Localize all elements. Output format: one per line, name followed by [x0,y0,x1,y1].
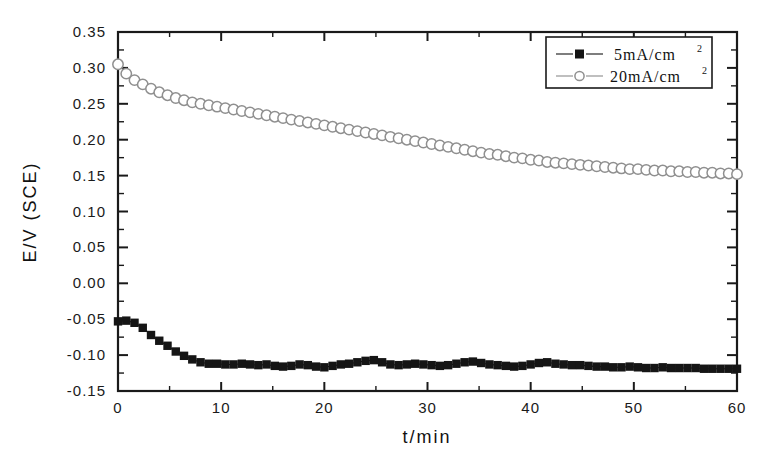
x-tick-label: 30 [418,399,437,416]
data-point-square [568,361,576,369]
y-tick-label: -0.10 [67,346,106,363]
data-point-square [139,324,147,332]
y-tick-label: 0.00 [73,274,106,291]
data-point-square [576,361,584,369]
data-point-square [708,365,716,373]
data-point-square [526,360,534,368]
data-point-square [617,363,625,371]
data-point-square [287,362,295,370]
chart-legend: 5mA/cm 2 20mA/cm 2 [546,37,712,88]
data-point-square [205,360,213,368]
data-point-square [535,359,543,367]
x-tick-label: 0 [113,399,122,416]
legend-label-20ma-superscript: 2 [702,65,707,76]
data-point-square [452,360,460,368]
data-point-square [229,360,237,368]
data-point-square [114,317,122,325]
x-axis-title: t/min [402,427,451,447]
y-tick-label: -0.05 [67,310,106,327]
data-point-square [320,363,328,371]
data-point-square [427,361,435,369]
y-axis-title: E/V (SCE) [20,161,40,262]
data-point-square [147,331,155,339]
data-point-square [716,365,724,373]
y-tick-label: -0.15 [67,382,106,399]
data-point-circle [113,59,123,69]
legend-marker-filled-square [575,50,584,59]
data-point-square [460,358,468,366]
data-point-square [493,361,501,369]
data-point-square [155,337,163,345]
data-point-square [312,362,320,370]
x-tick-label: 40 [521,399,540,416]
y-tick-label: 0.35 [73,23,106,40]
data-point-square [361,357,369,365]
data-point-square [733,365,741,373]
data-point-square [172,347,180,355]
data-point-square [667,364,675,372]
x-tick-label: 20 [315,399,334,416]
data-point-circle [732,169,742,179]
data-point-square [518,362,526,370]
legend-label-5ma-superscript: 2 [697,43,702,54]
data-point-square [559,360,567,368]
data-point-square [485,360,493,368]
data-point-square [725,365,733,373]
data-point-square [271,362,279,370]
data-point-square [683,364,691,372]
data-point-square [213,360,221,368]
data-point-square [609,363,617,371]
data-point-square [634,363,642,371]
data-point-square [419,360,427,368]
data-point-square [353,358,361,366]
data-point-square [650,364,658,372]
data-point-square [477,359,485,367]
data-point-square [279,362,287,370]
legend-label-5ma: 5mA/cm [614,46,676,63]
data-point-square [254,361,262,369]
data-point-square [337,360,345,368]
data-point-square [502,362,510,370]
data-point-square [659,363,667,371]
data-point-square [295,360,303,368]
series-filled-square [114,316,741,373]
data-point-square [403,360,411,368]
data-point-square [411,360,419,368]
legend-marker-open-circle [575,71,584,80]
data-point-square [642,364,650,372]
data-point-square [180,352,188,360]
y-tick-label: 0.05 [73,238,106,255]
data-point-square [345,360,353,368]
data-point-square [221,360,229,368]
data-point-square [328,362,336,370]
y-tick-label: 0.20 [73,131,106,148]
data-point-square [370,356,378,364]
data-point-square [436,362,444,370]
legend-label-20ma: 20mA/cm [610,68,681,85]
data-point-square [238,360,246,368]
data-point-square [378,358,386,366]
x-tick-label: 60 [728,399,747,416]
data-point-square [246,360,254,368]
data-point-square [543,358,551,366]
y-tick-label: 0.15 [73,167,106,184]
data-point-square [469,357,477,365]
y-axis-tick-labels: -0.15-0.10-0.050.000.050.100.150.200.250… [67,23,106,399]
chart-figure: 0102030405060 -0.15-0.10-0.050.000.050.1… [0,0,764,456]
data-point-square [700,365,708,373]
x-tick-label: 10 [212,399,231,416]
data-point-square [130,319,138,327]
line-chart: 0102030405060 -0.15-0.10-0.050.000.050.1… [0,0,764,456]
data-point-square [386,360,394,368]
data-point-square [262,360,270,368]
data-series-layer [113,59,742,373]
data-point-square [584,362,592,370]
data-point-square [304,361,312,369]
data-point-square [196,358,204,366]
data-point-square [626,362,634,370]
data-point-square [692,364,700,372]
data-point-square [188,355,196,363]
data-point-square [592,362,600,370]
x-axis-tick-labels: 0102030405060 [113,399,746,416]
x-tick-label: 50 [624,399,643,416]
